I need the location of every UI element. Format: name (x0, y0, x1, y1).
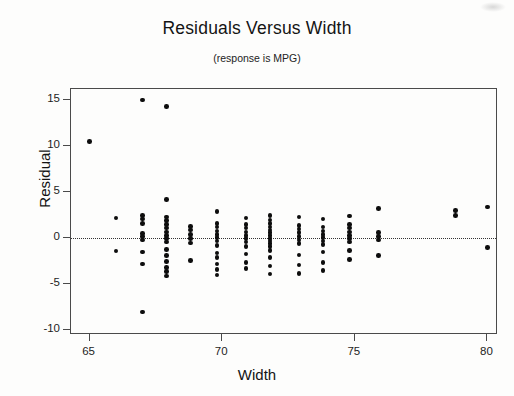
data-point (297, 253, 302, 258)
data-point (321, 260, 326, 265)
data-point (140, 238, 145, 243)
x-axis-tick-label: 75 (347, 345, 360, 357)
y-axis-tick (63, 145, 70, 146)
data-point (321, 268, 326, 273)
x-axis-title: Width (0, 366, 514, 383)
x-axis-tick-label: 80 (480, 345, 493, 357)
scatter-plot-area (71, 89, 496, 333)
data-point (244, 260, 249, 265)
y-axis-tick-label: -5 (30, 276, 60, 288)
chart-title: Residuals Versus Width (0, 18, 514, 39)
data-point (215, 209, 220, 214)
data-point (188, 236, 193, 241)
data-point (87, 139, 92, 144)
data-point (244, 244, 249, 249)
data-point (164, 247, 169, 252)
data-point (321, 217, 326, 222)
y-axis-tick-label: 5 (30, 184, 60, 196)
data-point (244, 266, 249, 271)
data-point (114, 249, 119, 254)
data-point (485, 245, 490, 250)
data-point (321, 242, 326, 247)
data-point (140, 262, 145, 267)
data-point (140, 98, 145, 103)
data-point (215, 262, 220, 267)
data-point (376, 253, 381, 258)
y-axis-tick-label: 15 (30, 92, 60, 104)
data-point (140, 310, 145, 315)
x-axis-tick (354, 334, 355, 341)
data-point (297, 271, 302, 276)
data-point (244, 252, 249, 257)
data-point (268, 264, 273, 269)
data-point (164, 259, 169, 264)
data-point (297, 215, 302, 220)
data-point (164, 253, 169, 258)
y-axis-tick (63, 283, 70, 284)
data-point (347, 248, 352, 253)
data-point (453, 213, 458, 218)
y-axis-tick (63, 237, 70, 238)
data-point (188, 258, 193, 263)
zero-reference-line (71, 238, 496, 239)
x-axis-tick-label: 70 (215, 345, 228, 357)
y-axis-tick-label: -10 (30, 322, 60, 334)
plot-frame (70, 88, 497, 334)
data-point (140, 250, 145, 255)
data-point (268, 213, 273, 218)
data-point (140, 221, 145, 226)
data-point (347, 257, 352, 262)
x-axis-tick (89, 334, 90, 341)
data-point (188, 241, 193, 246)
data-point (268, 255, 273, 260)
data-point (268, 272, 273, 277)
x-axis-tick (221, 334, 222, 341)
data-point (164, 240, 169, 245)
data-point (347, 214, 352, 219)
x-axis-tick (486, 334, 487, 341)
data-point (164, 197, 169, 202)
data-point (268, 248, 273, 253)
data-point (114, 216, 119, 221)
y-axis-tick (63, 99, 70, 100)
chart-canvas: Residuals Versus Width (response is MPG)… (0, 0, 514, 396)
data-point (164, 274, 169, 279)
chart-subtitle: (response is MPG) (0, 52, 514, 64)
data-point (215, 273, 220, 278)
x-axis-tick-label: 65 (82, 345, 95, 357)
y-axis-tick-label: 10 (30, 138, 60, 150)
data-point (297, 241, 302, 246)
data-point (215, 267, 220, 272)
data-point (347, 240, 352, 245)
data-point (321, 250, 326, 255)
data-point (215, 255, 220, 260)
data-point (215, 243, 220, 248)
data-point (244, 216, 249, 221)
y-axis-tick (63, 329, 70, 330)
data-point (376, 238, 381, 243)
data-point (485, 205, 490, 210)
y-axis-tick-label: 0 (30, 230, 60, 242)
y-axis-tick (63, 191, 70, 192)
y-axis-title: Residual (36, 119, 53, 239)
data-point (164, 104, 169, 109)
data-point (376, 206, 381, 211)
scan-artifact (480, 2, 506, 12)
data-point (297, 263, 302, 268)
